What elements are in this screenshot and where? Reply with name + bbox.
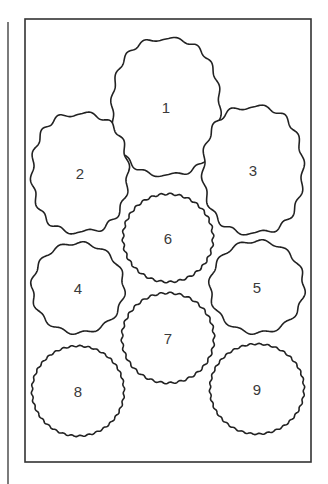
cookie-shape-5: 5 <box>209 240 306 334</box>
cookie-shape-4: 4 <box>31 242 126 334</box>
shape-number-label: 4 <box>74 280 82 297</box>
cookie-shape-3: 3 <box>201 105 304 235</box>
shape-number-label: 5 <box>253 279 261 296</box>
shape-group: 123456789 <box>30 37 305 436</box>
shape-number-label: 6 <box>164 230 172 247</box>
cookie-shape-8: 8 <box>31 345 124 436</box>
cookie-shape-6: 6 <box>122 193 214 283</box>
cookie-layout-diagram: 123456789 <box>0 0 328 484</box>
shape-number-label: 2 <box>76 165 84 182</box>
cookie-shape-9: 9 <box>209 343 304 434</box>
cookie-shape-2: 2 <box>30 112 129 234</box>
shape-number-label: 3 <box>249 162 257 179</box>
cookie-shape-7: 7 <box>121 292 215 384</box>
shape-number-label: 1 <box>162 99 170 116</box>
shape-number-label: 7 <box>164 330 172 347</box>
shape-number-label: 8 <box>74 383 82 400</box>
shape-number-label: 9 <box>253 381 261 398</box>
